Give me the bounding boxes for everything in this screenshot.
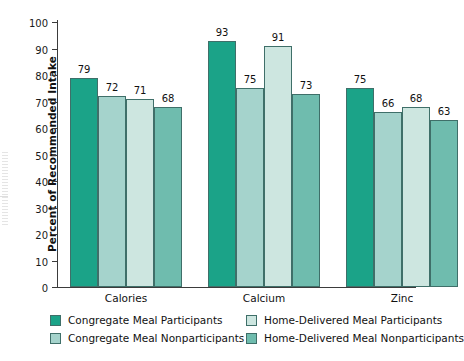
x-axis-category-label: Calories <box>70 292 182 304</box>
y-axis-tick-label: 20 <box>35 231 48 241</box>
bar <box>346 88 374 287</box>
bar <box>402 107 430 287</box>
y-axis-tick <box>52 287 57 288</box>
bar <box>98 96 126 287</box>
legend-item: Home-Delivered Meal Nonparticipants <box>246 331 464 345</box>
legend-swatch-icon <box>246 315 257 326</box>
bar <box>154 107 182 287</box>
plot-area: 797271689375917375666863 <box>57 22 415 287</box>
y-axis-tick-labels: 0102030405060708090100 <box>24 22 52 292</box>
y-axis-tick-label: 0 <box>42 284 48 294</box>
bar-value-label: 66 <box>374 99 402 109</box>
x-axis-category-label: Zinc <box>346 292 458 304</box>
bar-value-label: 71 <box>126 86 154 96</box>
bar <box>430 120 458 287</box>
bar-value-label: 68 <box>402 94 430 104</box>
legend-item: Congregate Meal Participants <box>50 313 223 327</box>
bar-value-label: 72 <box>98 83 126 93</box>
bar-value-label: 79 <box>70 65 98 75</box>
bar-value-label: 93 <box>208 28 236 38</box>
x-axis-line <box>57 287 416 288</box>
y-axis-tick-label: 100 <box>29 19 48 29</box>
scan-artifact-dash <box>0 196 8 197</box>
bar <box>70 78 98 287</box>
chart-legend: Congregate Meal ParticipantsCongregate M… <box>50 313 434 353</box>
bar-value-label: 63 <box>430 107 458 117</box>
legend-item: Congregate Meal Nonparticipants <box>50 331 244 345</box>
legend-swatch-icon <box>50 315 61 326</box>
bar <box>292 94 320 287</box>
legend-item: Home-Delivered Meal Participants <box>246 313 442 327</box>
bar <box>236 88 264 287</box>
legend-swatch-icon <box>246 333 257 344</box>
legend-label: Congregate Meal Participants <box>68 315 223 326</box>
y-axis-tick-label: 90 <box>35 46 48 56</box>
y-axis-tick-label: 30 <box>35 205 48 215</box>
y-axis-tick-label: 10 <box>35 258 48 268</box>
bar-value-label: 68 <box>154 94 182 104</box>
bar <box>208 41 236 287</box>
y-axis-tick-label: 70 <box>35 99 48 109</box>
bar-value-label: 75 <box>236 75 264 85</box>
bar <box>126 99 154 287</box>
x-axis-category-label: Calcium <box>208 292 320 304</box>
bar-value-label: 73 <box>292 81 320 91</box>
legend-label: Home-Delivered Meal Participants <box>264 315 442 326</box>
y-axis-tick-label: 50 <box>35 152 48 162</box>
y-axis-tick-label: 80 <box>35 72 48 82</box>
legend-swatch-icon <box>50 333 61 344</box>
legend-label: Home-Delivered Meal Nonparticipants <box>264 333 464 344</box>
bar-value-label: 91 <box>264 33 292 43</box>
bar <box>264 46 292 287</box>
y-axis-tick-label: 60 <box>35 125 48 135</box>
y-axis-tick-label: 40 <box>35 178 48 188</box>
bar-value-label: 75 <box>346 75 374 85</box>
bar <box>374 112 402 287</box>
legend-label: Congregate Meal Nonparticipants <box>68 333 244 344</box>
scan-artifact <box>2 152 8 226</box>
